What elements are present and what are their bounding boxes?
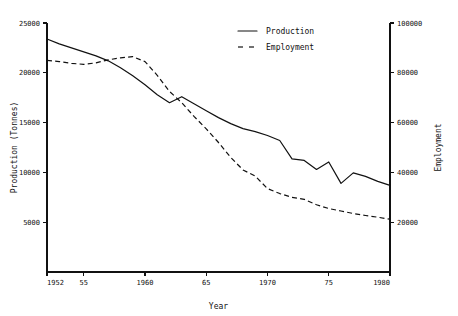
chart-figure: 5000100001500020000250002000040000600008… xyxy=(0,0,458,316)
y-axis-tick-label-left: 25000 xyxy=(19,20,40,28)
legend-label-production: Production xyxy=(266,27,314,36)
y-axis-title-left: Production (Tonnes) xyxy=(10,102,19,194)
x-axis-tick-label: 1960 xyxy=(137,279,154,287)
x-axis-title: Year xyxy=(209,302,228,311)
series-line-employment xyxy=(47,57,390,220)
y-axis-tick-label-left: 10000 xyxy=(19,169,40,177)
y-axis-tick-label-right: 100000 xyxy=(397,20,422,28)
y-axis-tick-label-right: 40000 xyxy=(397,169,418,177)
y-axis-tick-label-left: 5000 xyxy=(23,219,40,227)
line-chart: 5000100001500020000250002000040000600008… xyxy=(0,0,458,316)
series-line-production xyxy=(47,39,390,185)
x-axis-tick-label: 75 xyxy=(325,279,333,287)
axis-frame xyxy=(47,23,390,272)
y-axis-tick-label-right: 80000 xyxy=(397,69,418,77)
y-axis-title-right: Employment xyxy=(434,123,443,171)
legend-label-employment: Employment xyxy=(266,43,314,52)
y-axis-tick-label-right: 20000 xyxy=(397,219,418,227)
y-axis-tick-label-right: 60000 xyxy=(397,119,418,127)
x-axis-tick-label: 1952 xyxy=(47,279,64,287)
x-axis-tick-label: 55 xyxy=(80,279,88,287)
y-axis-tick-label-left: 20000 xyxy=(19,69,40,77)
x-axis-tick-label: 1970 xyxy=(259,279,276,287)
x-axis-tick-label: 65 xyxy=(202,279,210,287)
y-axis-tick-label-left: 15000 xyxy=(19,119,40,127)
x-axis-tick-label: 1980 xyxy=(373,279,390,287)
